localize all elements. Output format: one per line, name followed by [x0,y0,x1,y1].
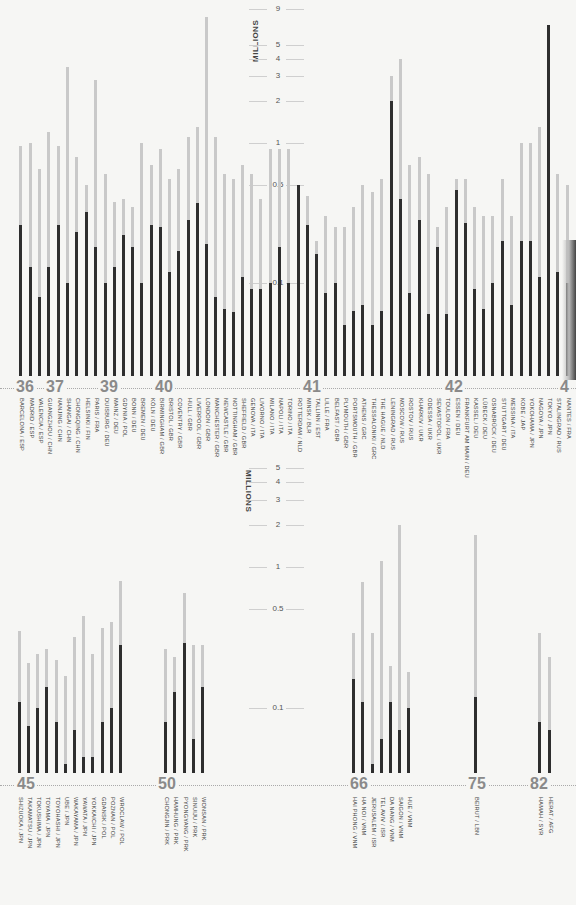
city-label: WAKAYAMA / JPN [73,797,79,846]
city-label: HAMAH / SYR [538,797,544,836]
y-tick-label: 0.5 [266,604,290,613]
bar-after-value [361,702,364,773]
city-label: DA NANG / VNM [389,797,395,842]
city-bar [82,0,85,773]
city-bar [389,0,392,773]
year-marker: 75 [466,775,488,793]
y-axis-unit-label: MILLIONS [244,470,253,512]
city-bar [538,0,541,773]
city-label: POZNAN / POL [110,797,116,839]
bar-after-value [164,722,167,773]
bar-after-value [36,708,39,773]
city-bar [55,0,58,773]
city-label: GDANSK / POL [101,797,107,839]
city-bar [91,0,94,773]
y-tick-label: 5 [266,463,290,472]
city-bar [398,0,401,773]
bar-after-value [380,739,383,773]
bar-before-value [82,616,85,773]
bar-after-value [173,692,176,773]
city-bar [73,0,76,773]
bar-after-value [110,708,113,773]
city-label: TOYOHASHI / JPN [55,797,61,848]
city-label: CHONGJIN / PRK [164,797,170,845]
city-label: TEL AVIV / ISR [380,797,386,837]
city-bar [173,0,176,773]
y-gridline-left [249,567,267,568]
city-label: YOKKAICHI / JPN [91,797,97,846]
city-label: TOYAMA / JPN [45,797,51,837]
city-label: HERAT / AFG [548,797,554,834]
city-bar [371,0,374,773]
y-gridline-left [249,708,267,709]
bar-before-value [64,676,67,773]
y-tick-label: 4 [266,477,290,486]
city-label: YAWATA / JPN [82,797,88,836]
city-label: TAKAMATSU / JPN [27,797,33,849]
city-label: HUE / VNM [407,797,413,828]
city-bar [201,0,204,773]
bar-before-value [91,654,94,773]
bar-after-value [73,730,76,773]
y-tick-label: 1 [266,562,290,571]
year-marker: 50 [156,775,178,793]
y-tick-label: 3 [266,495,290,504]
y-tick-label: 0.1 [266,703,290,712]
city-bar [380,0,383,773]
bar-after-value [119,645,122,773]
bar-after-value [183,643,186,773]
city-bar [64,0,67,773]
city-bar [45,0,48,773]
bar-after-value [45,687,48,773]
bar-after-value [352,679,355,773]
y-gridline-left [249,609,267,610]
year-marker: 66 [348,775,370,793]
city-bar [36,0,39,773]
city-label: WONSAN / PRK [201,797,207,841]
city-label: WROCLAW / POL [119,797,125,845]
city-label: UBE / JPN [64,797,70,826]
bar-after-value [474,697,477,773]
city-label: HAI PHONG / VNM [352,797,358,848]
city-bar [548,0,551,773]
bar-after-value [371,764,374,773]
y-gridline-left [249,500,267,501]
bottom-bar-chart: MILLIONS 0.10.512345SHIZUOKA / JPNTAKAMA… [0,0,576,905]
page-edge-shadow [562,240,576,380]
bar-after-value [101,722,104,773]
bar-after-value [538,722,541,773]
year-marker: 82 [528,775,550,793]
city-bar [192,0,195,773]
city-label: TOKUSHIMA / JPN [36,797,42,848]
city-bar [101,0,104,773]
bar-after-value [55,722,58,773]
bar-after-value [192,739,195,773]
x-axis-dotted-line [0,785,576,786]
y-gridline-left [249,525,267,526]
city-bar [27,0,30,773]
city-label: HAMHUNG / PRK [173,797,179,845]
bar-after-value [398,730,401,773]
bar-after-value [91,757,94,773]
city-label: HA NOI / VNM [361,797,367,835]
city-bar [18,0,21,773]
city-label: PYONGYANG / PRK [183,797,189,852]
city-label: SHIZUOKA / JPN [18,797,24,843]
bar-after-value [407,708,410,773]
year-marker: 45 [15,775,37,793]
bar-after-value [82,757,85,773]
city-bar [407,0,410,773]
bar-after-value [27,726,30,773]
city-label: JERUSALEM / ISR [371,797,377,848]
y-tick-label: 2 [266,520,290,529]
bar-after-value [201,687,204,773]
city-label: SAIGON / VNM [398,797,404,838]
bar-before-value [371,633,374,773]
bar-after-value [18,702,21,773]
city-bar [110,0,113,773]
city-label: BEIRUT / LBN [474,797,480,835]
bar-after-value [64,764,67,773]
y-gridline-left [249,482,267,483]
city-bar [119,0,122,773]
bar-after-value [548,730,551,773]
